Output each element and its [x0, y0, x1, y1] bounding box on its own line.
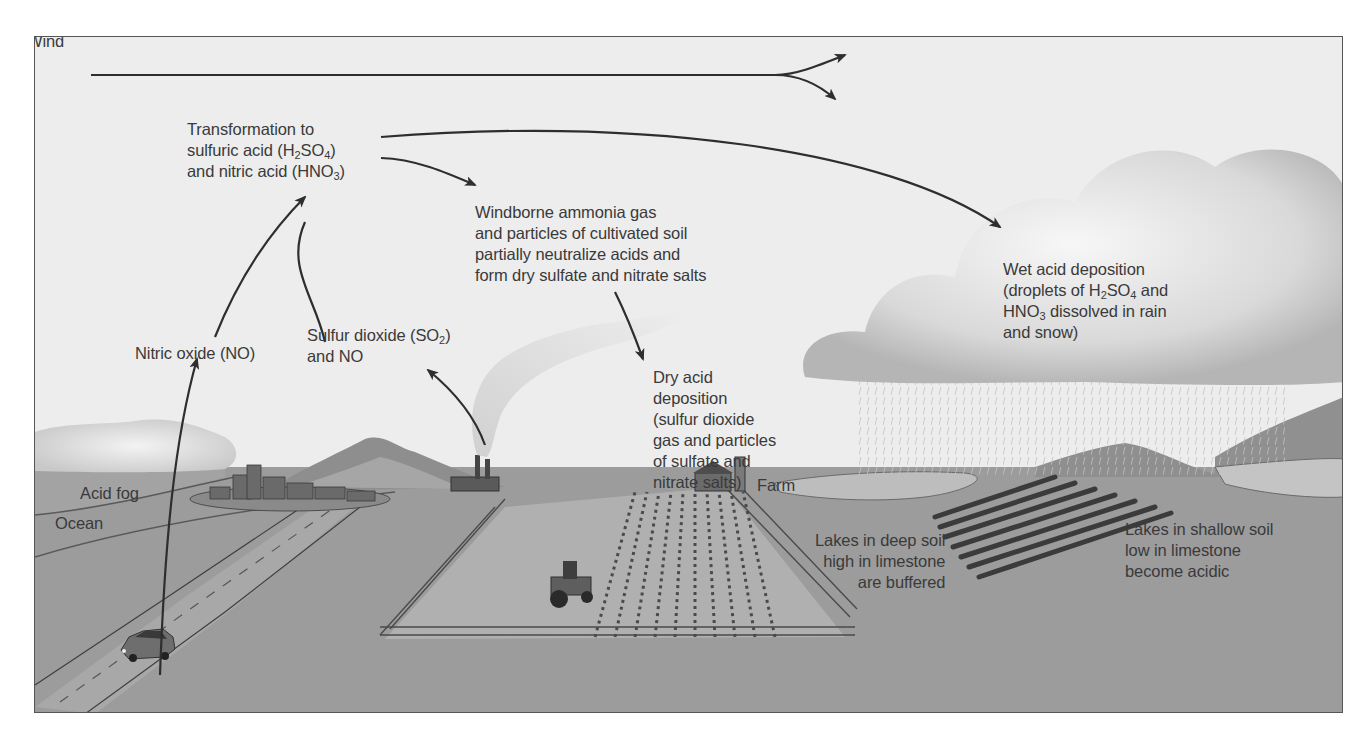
- acid-fog-label: Acid fog: [80, 483, 139, 504]
- nitric-oxide-label: Nitric oxide (NO): [135, 343, 255, 364]
- sulfur-dioxide-label: Sulfur dioxide (SO2) and NO: [307, 325, 451, 367]
- lakes-shallow-soil-label: Lakes in shallow soil low in limestone b…: [1125, 519, 1273, 582]
- acid-fog-cloud: [35, 420, 236, 473]
- wet-deposition-label: Wet acid deposition (droplets of H2SO4 a…: [1003, 259, 1168, 343]
- arrow-sulfur-dioxide-up: [298, 222, 325, 342]
- diagram-frame: Wind Transformation to sulfuric acid (H2…: [34, 36, 1343, 713]
- wind-label: Wind: [34, 36, 64, 52]
- windborne-label: Windborne ammonia gas and particles of c…: [475, 202, 706, 286]
- wind-arrow-down: [775, 75, 835, 99]
- farm-label: Farm: [757, 475, 795, 496]
- arrow-to-windborne: [381, 158, 475, 185]
- arrow-nitric-oxide-up: [215, 197, 305, 337]
- transformation-label: Transformation to sulfuric acid (H2SO4) …: [187, 119, 345, 182]
- ocean-label: Ocean: [55, 513, 103, 534]
- lakes-deep-soil-label: Lakes in deep soil high in limestone are…: [815, 530, 945, 593]
- wind-arrow-up: [91, 55, 845, 75]
